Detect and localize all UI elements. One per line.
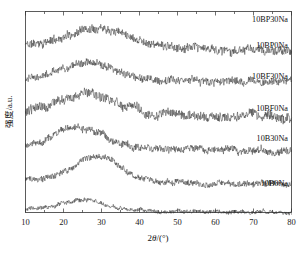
- series-label-10bp0na: 10BP0Na: [256, 41, 288, 50]
- y-axis-title: 强度/a.u.: [4, 96, 14, 129]
- x-axis-tick-labels: 1020304050607080: [21, 217, 296, 227]
- series-label-10bp30na: 10BP30Na: [252, 15, 288, 24]
- x-tick-label: 70: [249, 217, 258, 227]
- trace-10bf0na: [26, 124, 292, 156]
- x-tick-label: 80: [287, 217, 296, 227]
- x-tick-label: 10: [21, 217, 30, 227]
- xrd-chart-figure: 1020304050607080 10BP30Na10BP0Na10BF30Na…: [0, 0, 307, 256]
- chart-canvas: 1020304050607080 10BP30Na10BP0Na10BF30Na…: [0, 0, 307, 256]
- x-tick-label: 60: [211, 217, 220, 227]
- series-label-10bf30na: 10BF30Na: [252, 72, 288, 81]
- series-label-10b0na: 10B0Na: [261, 179, 289, 188]
- series-label-10b30na: 10B30Na: [257, 134, 289, 143]
- data-traces: [26, 24, 292, 215]
- trace-10bp30na: [26, 24, 292, 57]
- x-tick-label: 50: [173, 217, 182, 227]
- series-label-10bf0na: 10BF0Na: [256, 104, 288, 113]
- x-tick-label: 40: [135, 217, 144, 227]
- svg-text:2θ/(°): 2θ/(°): [147, 233, 168, 243]
- series-labels: 10BP30Na10BP0Na10BF30Na10BF0Na10B30Na10B…: [252, 15, 288, 188]
- trace-10bf30na: [26, 88, 292, 124]
- trace-10b30na: [26, 154, 292, 188]
- svg-text:强度/a.u.: 强度/a.u.: [4, 96, 14, 129]
- x-tick-label: 20: [59, 217, 68, 227]
- x-axis-title: 2θ/(°): [147, 233, 168, 243]
- x-tick-label: 30: [97, 217, 106, 227]
